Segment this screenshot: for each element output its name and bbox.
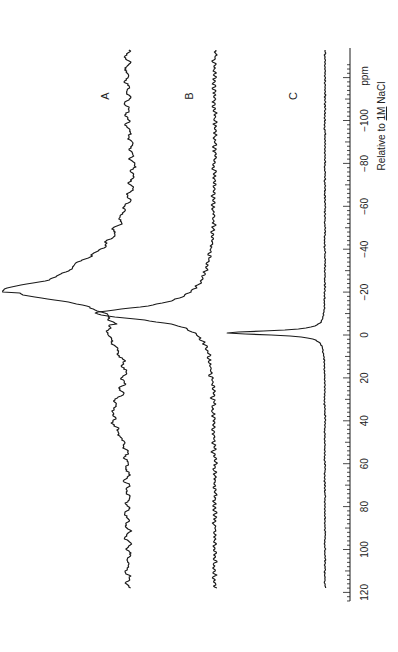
- axis-tick-label: 60: [359, 458, 370, 470]
- axis-tick-label: 120: [359, 584, 370, 601]
- trace-label-a: A: [99, 92, 111, 100]
- axis-tick-label: 0: [359, 332, 370, 338]
- trace-label-b: B: [183, 92, 195, 99]
- trace-b: [95, 50, 217, 588]
- axis-tick-label: −80: [359, 154, 370, 171]
- axis-tick-labels: 120100806040200−20−40−60−80−100: [359, 109, 370, 601]
- axis-tick-label: −100: [359, 109, 370, 132]
- axis-reference-label: Relative to 1M NaCl: [376, 82, 387, 171]
- trace-label-c: C: [287, 92, 299, 100]
- axis-tick-label: −60: [359, 197, 370, 214]
- axis-unit-label: ppm: [359, 66, 370, 85]
- trace-c: [227, 50, 326, 588]
- axis-tick-label: 40: [359, 415, 370, 427]
- axis-tick-label: 80: [359, 501, 370, 513]
- axis-tick-label: −20: [359, 283, 370, 300]
- axis-tick-label: 100: [359, 541, 370, 558]
- trace-a: [3, 50, 136, 588]
- nmr-spectrum-chart: 120100806040200−20−40−60−80−100 ppm Rela…: [0, 0, 398, 652]
- axis-tick-label: 20: [359, 372, 370, 384]
- axis-ticks: [343, 65, 350, 601]
- ppm-axis: 120100806040200−20−40−60−80−100 ppm Rela…: [343, 48, 387, 601]
- axis-tick-label: −40: [359, 240, 370, 257]
